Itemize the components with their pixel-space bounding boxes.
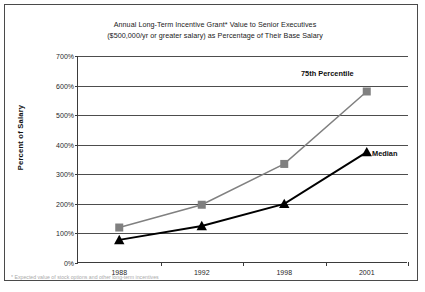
y-axis-title: Percent of Salary	[16, 90, 25, 186]
y-tick-label: 0%	[64, 260, 74, 267]
plot-area: 0%100%200%300%400%500%600%700% 198819921…	[77, 56, 407, 263]
x-tick-mark	[408, 262, 409, 266]
chart-title: Annual Long-Term Incentive Grant* Value …	[45, 20, 385, 41]
data-point-marker	[198, 201, 206, 209]
y-tick-label: 100%	[56, 230, 74, 237]
y-tick-label: 400%	[56, 141, 74, 148]
chart-title-line-2: ($500,000/yr or greater salary) as Perce…	[45, 31, 385, 42]
x-tick-label: 2001	[359, 269, 375, 276]
data-point-marker	[115, 224, 123, 232]
y-tick-label: 600%	[56, 82, 74, 89]
y-tick-label: 500%	[56, 112, 74, 119]
y-tick-label: 700%	[56, 53, 74, 60]
series-label-75th-percentile: 75th Percentile	[301, 69, 354, 78]
series-label-median: Median	[372, 149, 397, 158]
series-plot	[78, 56, 408, 263]
y-tick-label: 300%	[56, 171, 74, 178]
x-tick-label: 1998	[276, 269, 292, 276]
data-point-marker	[279, 199, 289, 208]
data-point-marker	[362, 147, 372, 156]
chart-footnote: * Expected value of stock options and ot…	[11, 274, 159, 280]
series-line-75th-percentile	[119, 91, 367, 227]
chart-frame: Annual Long-Term Incentive Grant* Value …	[4, 4, 418, 281]
y-tick-mark	[75, 263, 79, 264]
x-tick-label: 1992	[194, 269, 210, 276]
y-tick-label: 200%	[56, 200, 74, 207]
series-line-median	[119, 152, 367, 240]
chart-title-line-1: Annual Long-Term Incentive Grant* Value …	[45, 20, 385, 31]
data-point-marker	[280, 160, 288, 168]
data-point-marker	[363, 87, 371, 95]
